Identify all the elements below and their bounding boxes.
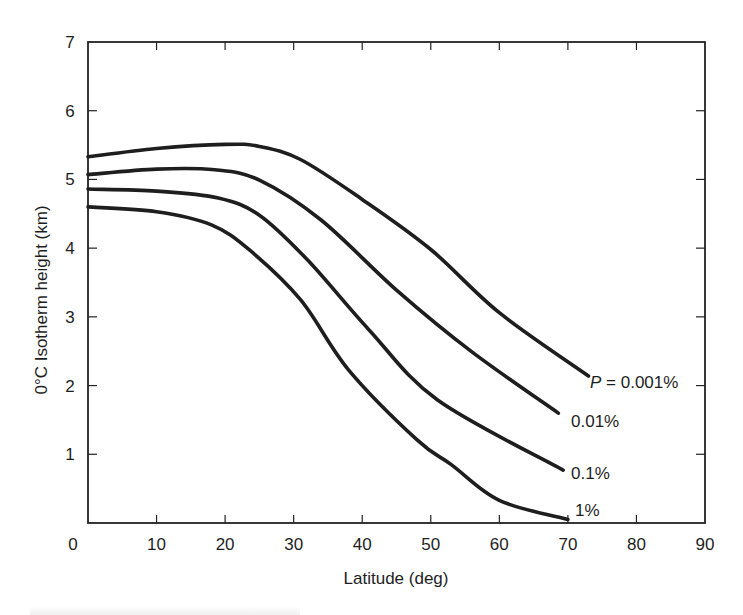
y-tick-label: 6 — [65, 102, 74, 121]
y-tick-label: 2 — [65, 377, 74, 396]
y-tick-label: 1 — [65, 445, 74, 464]
x-axis-title: Latitude (deg) — [344, 569, 449, 588]
figure-caption-clipped — [30, 606, 300, 615]
x-tick-label: 20 — [216, 535, 235, 554]
x-tick-label: 0 — [68, 535, 77, 554]
x-tick-label: 10 — [147, 535, 166, 554]
x-tick-label: 60 — [490, 535, 509, 554]
y-tick-labels: 1234567 — [65, 33, 74, 464]
y-axis-title: 0°C Isotherm height (km) — [32, 205, 51, 394]
x-tick-label: 90 — [696, 535, 715, 554]
x-tick-label: 70 — [558, 535, 577, 554]
x-tick-label: 30 — [284, 535, 303, 554]
x-tick-label: 80 — [627, 535, 646, 554]
series-label-0.01: 0.01% — [571, 412, 619, 431]
series-label-0.1: 0.1% — [571, 464, 610, 483]
curve-0.01-percent — [88, 168, 558, 413]
x-tick-label: 50 — [421, 535, 440, 554]
y-tick-label: 5 — [65, 170, 74, 189]
data-curves — [88, 144, 589, 519]
curve-0.001-percent — [88, 144, 589, 376]
curve-0.1-percent — [88, 189, 563, 470]
p-value: = 0.001% — [601, 373, 678, 392]
series-label-1: 1% — [575, 501, 600, 520]
isotherm-height-chart: 0102030405060708090 1234567 Latitude (de… — [0, 0, 743, 615]
x-tick-label: 40 — [353, 535, 372, 554]
plot-border — [88, 42, 705, 523]
series-label-0.001: P = 0.001% — [590, 373, 678, 392]
y-tick-label: 7 — [65, 33, 74, 52]
y-tick-label: 3 — [65, 308, 74, 327]
curve-1-percent — [88, 207, 568, 520]
p-symbol: P — [590, 373, 602, 392]
axis-ticks — [88, 42, 705, 523]
x-tick-labels: 0102030405060708090 — [68, 535, 714, 554]
y-tick-label: 4 — [65, 239, 74, 258]
plot-frame — [88, 42, 705, 523]
